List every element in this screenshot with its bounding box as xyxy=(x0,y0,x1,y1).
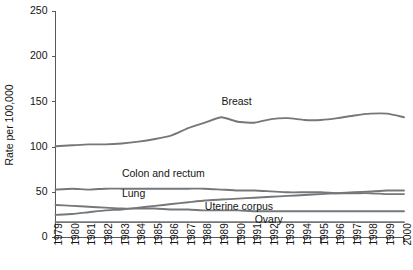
cancer-incidence-line-chart: 050100150200250 Rate per 100,000 1979198… xyxy=(0,0,413,270)
x-tick-label: 1982 xyxy=(103,223,114,246)
x-tick-label: 1986 xyxy=(169,223,180,246)
x-tick-label: 1987 xyxy=(186,223,197,246)
series-label-lung: Lung xyxy=(122,187,146,199)
series-label-ovary: Ovary xyxy=(255,213,284,225)
x-tick-label: 1979 xyxy=(53,223,64,246)
x-axis-group: 1979198019811982198319841985198619871988… xyxy=(53,223,413,246)
series-label-breast: Breast xyxy=(221,95,251,107)
y-tick-label: 200 xyxy=(30,49,48,61)
y-tick-labels: 050100150200250 xyxy=(30,4,48,242)
x-tick-label: 1995 xyxy=(319,223,330,246)
x-tick-label: 1994 xyxy=(302,223,313,246)
series-line-breast xyxy=(56,113,405,146)
y-axis-title: Rate per 100,000 xyxy=(3,84,15,165)
x-tick-label: 1988 xyxy=(202,223,213,246)
series-label-colon-and-rectum: Colon and rectum xyxy=(122,167,205,179)
y-axis-group: 050100150200250 Rate per 100,000 xyxy=(3,4,56,242)
x-tick-label: 1980 xyxy=(70,223,81,246)
chart-canvas: 050100150200250 Rate per 100,000 1979198… xyxy=(0,0,413,270)
y-tick-label: 50 xyxy=(36,185,48,197)
x-tick-label: 2000 xyxy=(402,223,413,246)
x-tick-label: 1989 xyxy=(219,223,230,246)
y-tick-label: 250 xyxy=(30,4,48,16)
x-tick-label: 1991 xyxy=(252,223,263,246)
x-tick-label: 1998 xyxy=(368,223,379,246)
x-tick-label: 1984 xyxy=(136,223,147,246)
x-tick-label: 1999 xyxy=(385,223,396,246)
x-tick-label: 1993 xyxy=(285,223,296,246)
series-annotation-labels: BreastColon and rectumLungUterine corpus… xyxy=(122,95,284,225)
y-tick-label: 0 xyxy=(42,230,48,242)
series-label-uterine-corpus: Uterine corpus xyxy=(205,200,273,212)
x-tick-label: 1981 xyxy=(86,223,97,246)
x-tick-label: 1983 xyxy=(120,223,131,246)
x-tick-label: 1992 xyxy=(269,223,280,246)
x-tick-label: 1996 xyxy=(335,223,346,246)
x-tick-label: 1985 xyxy=(153,223,164,246)
x-tick-label: 1997 xyxy=(352,223,363,246)
x-tick-labels: 1979198019811982198319841985198619871988… xyxy=(53,223,413,246)
y-tick-label: 100 xyxy=(30,140,48,152)
x-tick-label: 1990 xyxy=(236,223,247,246)
y-tick-label: 150 xyxy=(30,95,48,107)
